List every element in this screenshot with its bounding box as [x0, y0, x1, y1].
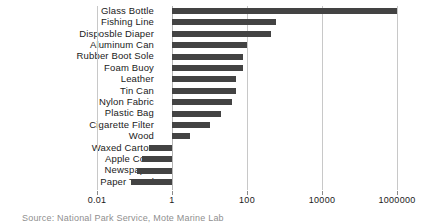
bar — [172, 76, 236, 82]
bar — [172, 99, 232, 105]
bar — [137, 168, 172, 174]
bar — [172, 19, 276, 25]
source-note: Source: National Park Service, Mote Mari… — [22, 213, 224, 223]
bar — [142, 156, 172, 162]
x-axis: 0.011100100001000000 — [0, 191, 424, 207]
bar — [131, 179, 172, 185]
bar — [172, 8, 397, 14]
plot-area — [97, 6, 400, 190]
x-tick-label: 100 — [239, 195, 255, 206]
gridline-0.01 — [97, 6, 98, 190]
bar — [172, 65, 243, 71]
x-tick-label: 1 — [169, 195, 174, 206]
x-tick-label: 0.01 — [88, 195, 107, 206]
x-tick-label: 1000000 — [378, 195, 415, 206]
bar — [172, 42, 247, 48]
gridline-10000 — [322, 6, 323, 190]
bar — [172, 122, 210, 128]
bar — [172, 111, 221, 117]
x-tick-label: 10000 — [309, 195, 336, 206]
gridline-1000000 — [397, 6, 398, 190]
bar — [172, 31, 271, 37]
bar — [172, 133, 190, 139]
decomposition-time-bar-chart: Glass BottleFishing LineDisposble Diaper… — [0, 0, 424, 223]
bar — [172, 88, 236, 94]
bar — [172, 54, 243, 60]
bar — [149, 145, 172, 151]
